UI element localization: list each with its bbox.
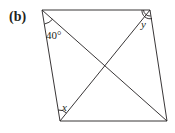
angle-label-40: 40° <box>46 29 61 41</box>
parallelogram-diagram: 40° y x <box>0 0 175 133</box>
angle-arc-top-left <box>45 19 53 24</box>
diagonal-bl-tr <box>60 10 150 121</box>
angle-label-x: x <box>61 101 67 113</box>
angle-label-y: y <box>140 18 146 30</box>
